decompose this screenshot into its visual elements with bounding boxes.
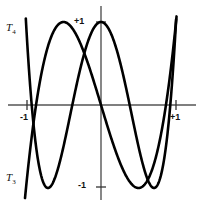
y-axis-label-plus-one: +1 — [74, 17, 84, 26]
y-axis-label-minus-one: -1 — [78, 181, 86, 190]
curve-label-t3: T3 — [6, 172, 16, 186]
curve-label-t3-subscript: 3 — [12, 178, 16, 186]
chebyshev-polynomial-figure: +1 -1 -1 +1 T4 T3 — [0, 0, 202, 204]
x-axis-label-minus-one: -1 — [20, 113, 28, 122]
plot-canvas — [0, 0, 202, 204]
curve-label-t4: T4 — [6, 22, 16, 36]
curve-label-t4-subscript: 4 — [12, 28, 16, 36]
x-axis-label-plus-one: +1 — [170, 113, 180, 122]
